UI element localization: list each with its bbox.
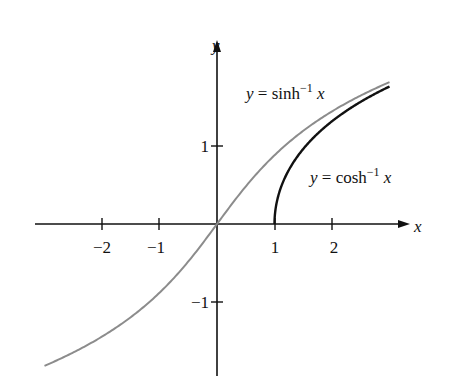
y-axis-label: y: [210, 36, 220, 55]
x-tick-label: 1: [271, 238, 280, 257]
asinh-label: y = sinh−1 x: [244, 81, 325, 103]
x-tick-label: −2: [93, 238, 111, 257]
x-tick-label: −1: [147, 238, 165, 257]
y-tick-label: 1: [201, 137, 210, 156]
x-tick-label: 2: [330, 238, 339, 257]
chart-canvas: −2 −1 1 2 1 −1 x y y = sinh−1 x y = cosh…: [0, 0, 456, 382]
x-axis-label: x: [413, 217, 422, 236]
acosh-curve: [275, 87, 390, 224]
x-axis-arrow-icon: [398, 220, 410, 228]
acosh-label: y = cosh−1 x: [308, 165, 392, 187]
y-tick-label: −1: [191, 293, 209, 312]
